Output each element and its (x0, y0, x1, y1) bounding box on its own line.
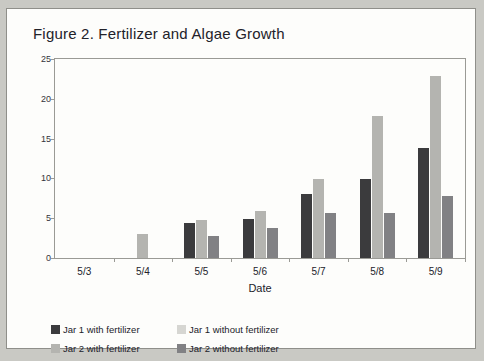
bar (208, 236, 219, 258)
y-axis-tick-label: 10 (29, 173, 51, 183)
plot-inner: 05101520255/35/45/55/65/75/85/9 (55, 59, 465, 258)
bar (442, 196, 453, 258)
y-axis-tick-label: 20 (29, 94, 51, 104)
bar (372, 116, 383, 258)
x-axis-tick-mark (348, 258, 349, 262)
x-axis-tick-mark (172, 258, 173, 262)
chart-legend: Jar 1 with fertilizerJar 1 without ferti… (51, 320, 337, 358)
bar (418, 148, 429, 258)
legend-item[interactable]: Jar 1 with fertilizer (51, 324, 177, 335)
x-axis-tick-mark (289, 258, 290, 262)
legend-swatch-icon (177, 325, 186, 334)
legend-swatch-icon (177, 344, 186, 353)
plot-area: 05101520255/35/45/55/65/75/85/9 (54, 58, 466, 259)
bar (360, 179, 371, 258)
legend-item[interactable]: Jar 1 without fertilizer (177, 324, 337, 335)
legend-swatch-icon (51, 344, 60, 353)
bar (184, 223, 195, 258)
legend-swatch-icon (51, 325, 60, 334)
x-axis-tick-mark (465, 258, 466, 262)
legend-item[interactable]: Jar 2 without fertilizer (177, 343, 337, 354)
y-axis-tick-mark (51, 178, 55, 179)
x-axis-tick-label: 5/3 (77, 266, 91, 277)
y-axis-tick-label: 15 (29, 134, 51, 144)
legend-label: Jar 1 without fertilizer (189, 324, 279, 335)
x-axis-tick-mark (114, 258, 115, 262)
y-axis-tick-mark (51, 59, 55, 60)
x-axis-tick-label: 5/4 (136, 266, 150, 277)
y-axis-tick-mark (51, 258, 55, 259)
x-axis-tick-label: 5/5 (194, 266, 208, 277)
y-axis-tick-mark (51, 218, 55, 219)
bar (255, 211, 266, 258)
x-axis-tick-label: 5/9 (429, 266, 443, 277)
bar (384, 213, 395, 258)
x-axis-tick-label: 5/8 (370, 266, 384, 277)
bar (137, 234, 148, 258)
y-axis-tick-mark (51, 99, 55, 100)
legend-item[interactable]: Jar 2 with fertilizer (51, 343, 177, 354)
page-title: Figure 2. Fertilizer and Algae Growth (33, 25, 285, 42)
x-axis-tick-mark (231, 258, 232, 262)
y-axis-tick-label: 5 (29, 213, 51, 223)
bar (313, 179, 324, 258)
page-background: Figure 2. Fertilizer and Algae Growth Di… (0, 0, 484, 361)
x-axis-title: Date (54, 282, 466, 294)
bar (243, 219, 254, 258)
y-axis-tick-mark (51, 139, 55, 140)
legend-label: Jar 2 without fertilizer (189, 343, 279, 354)
legend-label: Jar 2 with fertilizer (63, 343, 140, 354)
x-axis-tick-label: 5/6 (253, 266, 267, 277)
bar (430, 76, 441, 258)
x-axis-tick-mark (406, 258, 407, 262)
y-axis-tick-label: 25 (29, 54, 51, 64)
bar (196, 220, 207, 258)
x-axis-tick-label: 5/7 (312, 266, 326, 277)
legend-label: Jar 1 with fertilizer (63, 324, 140, 335)
figure-card: Figure 2. Fertilizer and Algae Growth Di… (6, 8, 476, 349)
bar (301, 194, 312, 258)
bar (267, 228, 278, 258)
y-axis-tick-label: 0 (29, 253, 51, 263)
bar (325, 213, 336, 258)
